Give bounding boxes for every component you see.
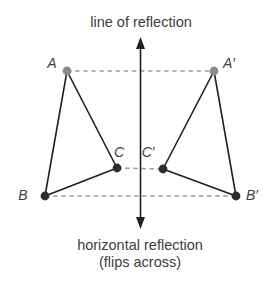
vertex-label-C: C: [114, 144, 125, 160]
triangle-abc: [45, 71, 117, 196]
up-arrowhead-icon: [136, 37, 145, 49]
vertex-dot-Bp: [232, 192, 241, 201]
reflection-diagram: AA′BB′CC′ line of reflection horizontal …: [0, 0, 271, 286]
vertex-dot-Cp: [159, 165, 168, 174]
vertex-label-B: B: [18, 187, 27, 203]
vertex-label-Cp: C′: [142, 144, 156, 160]
vertex-labels-group: AA′BB′CC′: [18, 55, 259, 203]
reflection-figure: AA′BB′CC′ line of reflection horizontal …: [0, 0, 271, 286]
vertex-label-A: A: [46, 55, 56, 71]
axis-group: [136, 37, 145, 229]
vertex-dot-A: [63, 67, 72, 76]
vertex-label-Bp: B′: [246, 187, 259, 203]
vertex-dot-Ap: [210, 67, 219, 76]
triangle-a-b-c-prime: [163, 71, 236, 196]
down-arrowhead-icon: [136, 217, 145, 229]
title: line of reflection: [90, 14, 192, 30]
caption-line-2: (flips across): [99, 254, 181, 270]
vertex-dot-C: [113, 164, 122, 173]
vertex-label-Ap: A′: [222, 55, 236, 71]
vertex-dot-B: [41, 192, 50, 201]
caption-line-1: horizontal reflection: [77, 237, 203, 253]
